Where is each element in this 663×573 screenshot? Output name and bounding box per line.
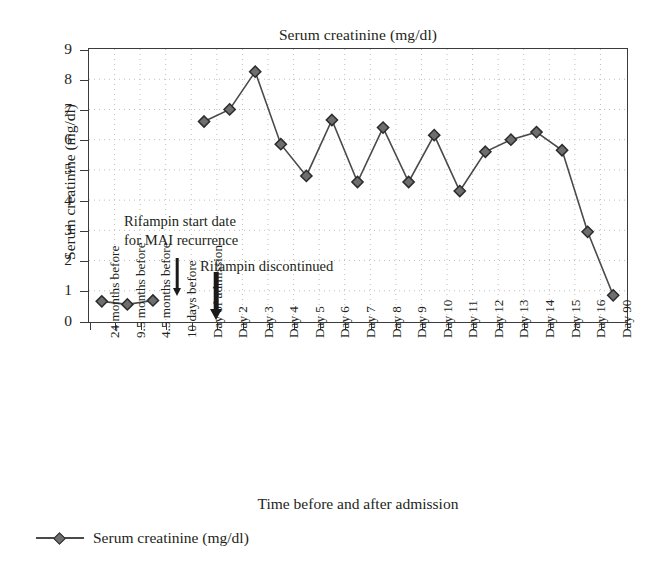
x-axis-tick-label: Day 12 <box>491 300 507 338</box>
x-axis-tick <box>90 323 91 330</box>
y-axis-tick <box>80 231 88 232</box>
y-axis-tick-label: 5 <box>14 161 72 177</box>
chart-title: Serum creatinine (mg/dl) <box>88 26 628 44</box>
x-axis-tick-label: 9.5 months before <box>133 242 149 338</box>
y-axis-tick-label: 0 <box>14 313 72 329</box>
x-axis-tick-label: 24 months before <box>107 246 123 338</box>
x-axis-tick-label: Day 11 <box>465 300 481 338</box>
data-point-marker <box>224 104 235 115</box>
chart-figure: Serum creatinine (mg/dl) Serum creatinin… <box>0 0 663 573</box>
y-axis-tick-label: 7 <box>14 101 72 117</box>
y-axis-tick <box>80 170 88 171</box>
arrow-shaft <box>176 258 179 289</box>
x-axis-tick-label: Day 90 <box>619 300 635 338</box>
arrow-head <box>210 309 222 320</box>
data-point-marker <box>480 146 491 157</box>
x-axis-title: Time before and after admission <box>88 495 628 513</box>
y-axis-tick-label: 4 <box>14 192 72 208</box>
arrow-head <box>173 288 181 296</box>
legend: Serum creatinine (mg/dl) <box>36 529 249 547</box>
data-point-marker <box>403 176 414 187</box>
data-point-marker <box>352 176 363 187</box>
x-axis-tick-label: Day 5 <box>312 306 328 338</box>
y-axis-tick-label: 1 <box>14 282 72 298</box>
data-point-marker <box>147 295 158 306</box>
x-axis-tick-label: 10 days before <box>184 260 200 338</box>
y-axis-tick-label: 3 <box>14 222 72 238</box>
data-point-marker <box>96 296 107 307</box>
data-point-marker <box>122 299 133 310</box>
data-point-marker <box>582 226 593 237</box>
data-point-marker <box>429 130 440 141</box>
y-axis-tick <box>80 80 88 81</box>
legend-label-serum-creatinine: Serum creatinine (mg/dl) <box>93 529 249 547</box>
data-point-marker <box>198 116 209 127</box>
y-axis-tick <box>80 50 88 51</box>
y-axis-tick <box>80 110 88 111</box>
annotation-rifampin-start-line2: for MAI recurrence <box>124 231 238 250</box>
data-point-marker <box>531 127 542 138</box>
x-axis-tick-label: Day 8 <box>389 306 405 338</box>
x-axis-tick-label: Day 4 <box>286 306 302 338</box>
data-point-marker <box>608 290 619 301</box>
x-axis-tick-label: Day 3 <box>261 306 277 338</box>
y-axis-tick <box>80 261 88 262</box>
y-axis-tick <box>80 201 88 202</box>
y-axis-tick <box>80 291 88 292</box>
x-axis-tick-label: Day 6 <box>337 306 353 338</box>
data-point-marker <box>377 122 388 133</box>
data-point-marker <box>505 134 516 145</box>
y-axis-tick-label: 9 <box>14 41 72 57</box>
y-axis-tick <box>80 140 88 141</box>
x-axis-tick-label: Day 10 <box>440 300 456 338</box>
annotation-rifampin-start: Rifampin start date for MAI recurrence <box>124 212 238 249</box>
y-axis-tick-label: 8 <box>14 71 72 87</box>
annotation-rifampin-start-line1: Rifampin start date <box>124 212 238 231</box>
legend-marker-icon <box>36 531 84 545</box>
y-axis-tick-label: 6 <box>14 131 72 147</box>
x-axis-tick-label: Day 13 <box>516 300 532 338</box>
data-point-marker <box>556 145 567 156</box>
data-point-marker <box>326 114 337 125</box>
data-point-marker <box>250 66 261 77</box>
x-axis-tick-label: Day 2 <box>235 306 251 338</box>
y-axis-tick-label: 2 <box>14 252 72 268</box>
x-axis-tick-label: Day 7 <box>363 306 379 338</box>
arrow-rifampin-discontinued-icon <box>208 272 224 320</box>
arrow-shaft <box>214 272 219 310</box>
y-axis-tick <box>80 322 88 323</box>
x-axis-tick-label: Day 16 <box>593 300 609 338</box>
data-point-marker <box>454 185 465 196</box>
diamond-icon <box>53 532 66 545</box>
x-axis-tick-label: Day 9 <box>414 306 430 338</box>
arrow-rifampin-start-icon <box>171 258 183 296</box>
x-axis-tick-label: Day 15 <box>568 300 584 338</box>
x-axis-tick-label: Day 14 <box>542 300 558 338</box>
